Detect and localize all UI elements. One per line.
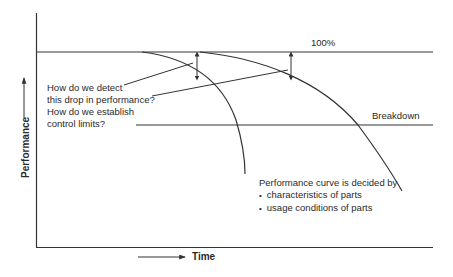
performance-curve-fast [142,52,245,174]
breakdown-label: Breakdown [372,110,420,122]
question-detect-line1: How do we detect [47,82,155,94]
question-control-line1: How do we establish [47,106,134,118]
note-heading: Performance curve is decided by [259,177,397,189]
note-bullet-characteristics: characteristics of parts [259,189,397,202]
question-control-limits: How do we establish control limits? [47,106,134,130]
note-bullet-list: characteristics of parts usage condition… [259,189,397,215]
note-bullet-usage: usage conditions of parts [259,202,397,215]
y-axis-label: Performance [20,117,31,178]
question-control-line2: control limits? [47,118,134,130]
question-detect-drop: How do we detect this drop in performanc… [47,82,155,106]
performance-diagram [0,0,453,277]
performance-curve-note: Performance curve is decided by characte… [259,177,397,215]
hundred-percent-label: 100% [311,37,335,49]
x-axis-label: Time [192,251,215,262]
question-detect-line2: this drop in performance? [47,94,155,106]
leader-line-control [152,70,288,96]
